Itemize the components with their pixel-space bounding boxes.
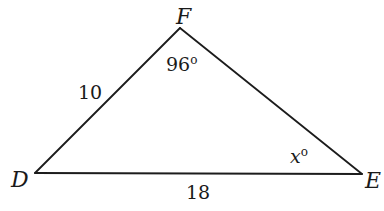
degree-symbol-f: o: [190, 53, 197, 67]
vertex-label-f: F: [175, 4, 192, 29]
side-label-df: 10: [78, 81, 102, 103]
degree-symbol-e: o: [301, 145, 308, 159]
angle-e-variable: x: [290, 145, 301, 167]
angle-label-e: xo: [290, 145, 308, 167]
side-de: [35, 173, 362, 174]
side-label-de: 18: [186, 181, 210, 203]
vertex-label-d: D: [10, 167, 29, 192]
angle-label-f: 96o: [166, 53, 197, 75]
angle-f-value: 96: [166, 53, 190, 75]
side-df: [35, 28, 180, 173]
triangle-diagram: F D E 10 18 96o xo: [0, 0, 384, 211]
vertex-label-e: E: [364, 168, 381, 193]
side-fe: [180, 28, 362, 174]
